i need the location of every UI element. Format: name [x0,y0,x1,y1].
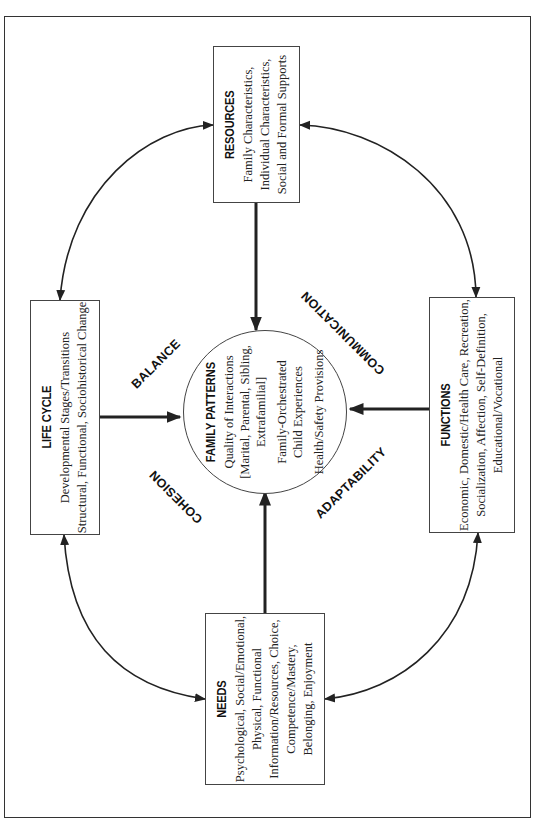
life-cycle-line-1: Developmental Stages/Transitions [57,332,74,503]
arc-functions-needs [325,533,478,699]
resources-title: RESOURCES [222,90,237,158]
center-line-2: [Marital, Parental, Sibling, [237,345,253,479]
arc-resources-functions [300,125,476,297]
center-line-4: Family-Orchestrated [274,360,290,463]
family-patterns-circle: FAMILY PATTERNS Quality of Interactions … [183,330,347,494]
needs-line-3: Information/Resources, Choice, [266,619,283,778]
center-line-1: Quality of Interactions [221,355,237,468]
arc-needs-lifecycle [64,535,205,699]
center-line-5: Child Experiences [290,366,306,458]
life-cycle-title: LIFE CYCLE [39,386,54,449]
needs-box: NEEDS Psychological, Social/Emotional, P… [205,613,325,785]
family-patterns-title: FAMILY PATTERNS [203,362,218,462]
needs-line-4: Competence/Mastery, [283,644,300,753]
functions-box: FUNCTIONS Economic, Domestic/Health Care… [429,297,515,533]
arc-lifecycle-resources [60,125,213,300]
life-cycle-box: LIFE CYCLE Developmental Stages/Transiti… [30,300,100,535]
resources-line-2: Individual Characteristics, [257,59,274,191]
resources-line-3: Social and Formal Supports [274,55,291,194]
needs-line-5: Belonging, Enjoyment [300,642,317,755]
resources-box: RESOURCES Family Characteristics, Indivi… [213,46,300,203]
diagram-stage: RESOURCES Family Characteristics, Indivi… [0,0,537,827]
center-line-6: Health/Safety Provisions [311,350,327,475]
needs-line-1: Psychological, Social/Emotional, [232,616,249,782]
functions-title: FUNCTIONS [438,384,453,447]
functions-line-1: Economic, Domestic/Health Care, Recreati… [456,299,473,531]
needs-title: NEEDS [214,680,229,717]
resources-line-1: Family Characteristics, [240,67,257,183]
needs-line-2: Physical, Functional [249,648,266,750]
life-cycle-line-2: Structural, Functional, Sociohistorical … [74,302,91,534]
functions-line-3: Educational/Vocational [490,357,507,473]
functions-line-2: Socialization, Affection, Self-Definitio… [473,313,490,517]
center-line-3: Extrafamilial] [253,377,269,447]
